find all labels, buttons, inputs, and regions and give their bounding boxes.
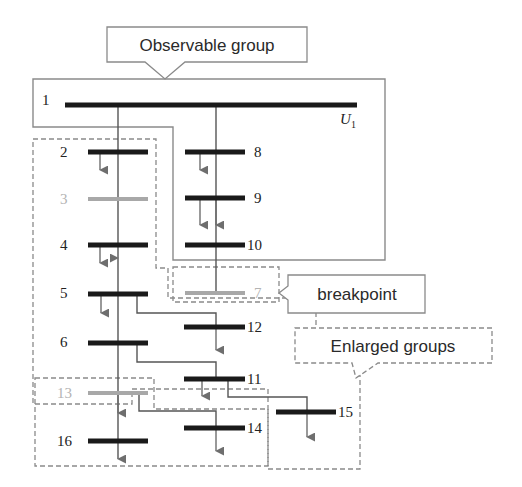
bus-label-4: 4 (60, 237, 68, 253)
bus-label-5: 5 (60, 285, 68, 301)
observable-group-callout: Observable group (107, 27, 307, 79)
enlarged-groups-callout: Enlarged groups (295, 328, 492, 378)
bus-label-2: 2 (60, 144, 68, 160)
bus-label-15: 15 (338, 404, 353, 420)
breakpoint-callout: breakpoint (279, 275, 425, 313)
bus-label-14: 14 (247, 420, 263, 436)
bus-label-8: 8 (254, 144, 262, 160)
bus-label-13: 13 (57, 385, 72, 401)
bus-label-7: 7 (254, 285, 262, 301)
observable-group-label: Observable group (139, 36, 274, 55)
breakpoint-label: breakpoint (317, 285, 397, 304)
source-voltage-sub: 1 (351, 119, 356, 130)
bus-label-9: 9 (254, 190, 262, 206)
buses (65, 105, 357, 441)
bus-label-1: 1 (42, 92, 50, 108)
enlarged-groups-label: Enlarged groups (331, 337, 456, 356)
bus-label-6: 6 (60, 334, 68, 350)
bus-label-11: 11 (247, 371, 261, 387)
breakpoint-group-outline (173, 267, 279, 302)
bus-label-10: 10 (247, 237, 262, 253)
bus-labels: 1 2 3 4 5 6 7 8 9 10 11 12 13 14 15 16 (42, 92, 353, 449)
bus-label-12: 12 (247, 319, 262, 335)
source-voltage-label: U 1 (340, 111, 356, 130)
bus-label-16: 16 (57, 433, 73, 449)
distribution-network-diagram: Observable group breakpoint Enlarged gro… (0, 0, 522, 487)
bus-label-3: 3 (60, 191, 68, 207)
